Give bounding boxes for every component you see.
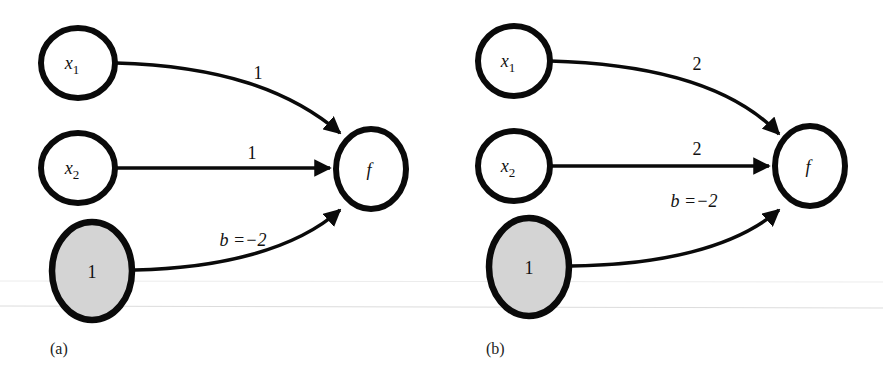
bias-node-label: 1 bbox=[88, 262, 97, 282]
panel-b-caption: (b) bbox=[486, 340, 505, 358]
weight-label-x2: 1 bbox=[248, 143, 257, 163]
panel-a: 1 1 b =−2 x1 x2 1 f (a) bbox=[41, 28, 406, 358]
edge-x1-to-f bbox=[550, 61, 779, 134]
weight-label-x1: 1 bbox=[254, 63, 263, 83]
bias-weight-label: b =−2 bbox=[671, 191, 718, 211]
faint-rule-lower bbox=[0, 306, 883, 308]
weight-label-x2: 2 bbox=[693, 139, 702, 159]
edge-x1-to-f bbox=[116, 63, 340, 133]
weight-label-x1: 2 bbox=[693, 54, 702, 74]
panel-a-caption: (a) bbox=[50, 340, 68, 358]
bias-node-label: 1 bbox=[525, 258, 534, 278]
perceptron-diagram: 1 1 b =−2 x1 x2 1 f (a) 2 2 b =−2 x1 x2 … bbox=[0, 0, 883, 387]
bias-weight-label: b =−2 bbox=[220, 230, 267, 250]
edge-bias-to-f bbox=[571, 210, 779, 266]
